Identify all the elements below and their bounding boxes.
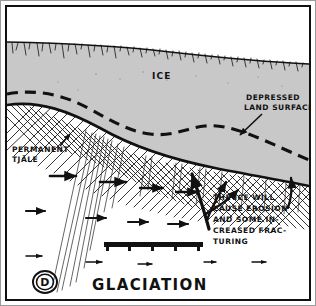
ice-sheet-body <box>7 42 309 186</box>
figure-panel: ICE <box>0 0 316 306</box>
erosion-note-line-3: AND SOME IN- <box>213 215 279 224</box>
scale-bar <box>104 242 203 251</box>
erosion-note-line-5: TURING <box>213 237 248 246</box>
erosion-note-line-4: CREASED FRAC- <box>213 226 287 235</box>
circled-d-monogram: D <box>33 271 57 293</box>
erosion-note-line-1: THE ICE WILL <box>213 193 275 202</box>
permanent-tjale-line-1: PERMANENT <box>12 145 69 154</box>
permanent-tjale-line-2: TJÄLE <box>12 155 38 164</box>
ice-label: ICE <box>152 71 171 81</box>
figure-title: GLACIATION <box>92 276 208 294</box>
erosion-note-line-2: CAUSE EROSION <box>213 204 288 213</box>
depressed-label-line-2: LAND SURFACE <box>244 103 314 112</box>
erosion-note-text: THE ICE WILL CAUSE EROSION AND SOME IN- … <box>213 193 288 246</box>
depressed-label-line-1: DEPRESSED <box>246 93 300 102</box>
glaciation-cross-section-diagram: ICE <box>0 0 316 306</box>
logo-letter: D <box>40 276 50 289</box>
